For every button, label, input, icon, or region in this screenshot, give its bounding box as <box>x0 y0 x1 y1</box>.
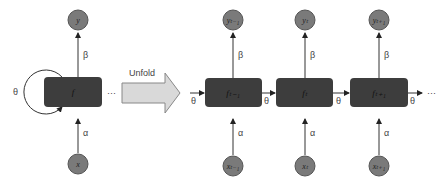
unrolled-rnn: θ yₜ₋₁ β fₜ₋₁ α xₜ₋₁ θ yₜ β fₜ α <box>190 10 436 176</box>
theta-label-in: θ <box>191 96 196 106</box>
beta-label: β <box>83 50 88 60</box>
input-node-label: xₜ₊₁ <box>372 162 386 171</box>
output-node-label: yₜ <box>301 16 309 25</box>
trailing-ellipsis: ··· <box>427 88 436 98</box>
beta-label: β <box>384 50 389 60</box>
step-t-minus-1: yₜ₋₁ β fₜ₋₁ α xₜ₋₁ <box>205 10 262 176</box>
theta-label: θ <box>264 96 269 106</box>
output-node-label: yₜ₋₁ <box>226 16 240 25</box>
alpha-label: α <box>310 128 315 138</box>
rnn-unfold-diagram: y β θ f ··· α x Unfold θ yₜ₋₁ β fₜ₋₁ α <box>0 0 448 187</box>
output-node-label: y <box>75 16 80 25</box>
output-node-label: yₜ₊₁ <box>372 16 386 25</box>
step-t-plus-1: yₜ₊₁ β fₜ₊₁ α xₜ₊₁ <box>350 10 408 176</box>
alpha-label: α <box>384 128 389 138</box>
input-node-label: xₜ <box>301 162 309 171</box>
alpha-label: α <box>238 128 243 138</box>
theta-label: θ <box>336 96 341 106</box>
unfold-arrow: Unfold <box>122 68 180 113</box>
input-node-label: x <box>75 160 80 169</box>
unfold-label: Unfold <box>129 68 155 78</box>
input-node-label: xₜ₋₁ <box>226 162 240 171</box>
cell-label: fₜ₋₁ <box>226 88 240 98</box>
beta-label: β <box>238 50 243 60</box>
theta-label-out: θ <box>410 96 415 106</box>
cell-label: fₜ <box>302 88 308 98</box>
folded-rnn: y β θ f ··· α x <box>13 10 116 174</box>
folded-ellipsis: ··· <box>107 88 116 98</box>
theta-label: θ <box>13 87 18 97</box>
beta-label: β <box>310 50 315 60</box>
cell-label: fₜ₊₁ <box>372 88 386 98</box>
alpha-label: α <box>83 128 88 138</box>
step-t: yₜ β fₜ α xₜ <box>276 10 333 176</box>
